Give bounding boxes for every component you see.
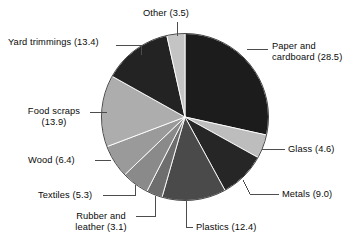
slice-label-rubber-line1: Rubber and: [76, 211, 126, 221]
slice-label-metals: Metals (9.0): [282, 189, 332, 200]
leader-line-rubber: [136, 196, 155, 216]
slice-label-food-scraps: Food scraps (13.9): [22, 106, 86, 128]
slice-label-yard-trimmings: Yard trimmings (13.4): [8, 37, 99, 48]
slice-label-paper-line1: Paper and: [272, 41, 316, 51]
leader-line-textiles: [103, 185, 135, 195]
slice-label-textiles: Textiles (5.3): [38, 190, 92, 201]
leader-line-metals: [243, 180, 279, 194]
leader-line-plastics: [186, 201, 193, 227]
slice-label-food-line2: (13.9): [42, 117, 67, 127]
slice-label-food-line1: Food scraps: [28, 106, 80, 116]
slice-label-glass: Glass (4.6): [288, 144, 335, 155]
slice-label-rubber-and-leather: Rubber and leather (3.1): [69, 211, 133, 233]
slice-label-paper-and-cardboard: Paper and cardboard (28.5): [272, 41, 358, 63]
pie-chart: Other (3.5) Paper and cardboard (28.5) G…: [0, 0, 361, 250]
slice-label-other: Other (3.5): [143, 8, 189, 19]
slice-label-paper-line2: cardboard (28.5): [272, 52, 342, 62]
slice-label-rubber-line2: leather (3.1): [75, 222, 126, 232]
slice-label-wood: Wood (6.4): [28, 155, 75, 166]
slice-label-plastics: Plastics (12.4): [196, 222, 256, 233]
pie-slice-group: [102, 34, 269, 201]
